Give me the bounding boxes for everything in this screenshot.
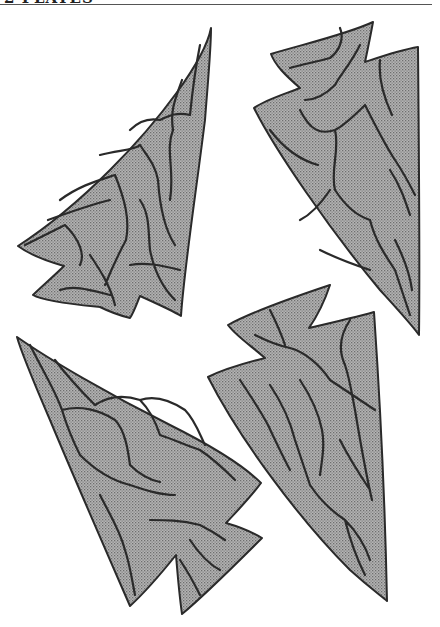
arrowheads-figure: [0, 0, 440, 627]
arrowhead-top-right: [254, 22, 419, 335]
arrowhead-top-left: [18, 28, 211, 318]
